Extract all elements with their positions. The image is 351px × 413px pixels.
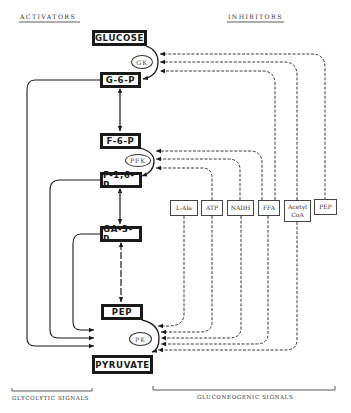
enzyme-pk: PK — [129, 332, 152, 346]
enzyme-gk: GK — [131, 55, 153, 69]
glycolytic-bracket — [12, 388, 92, 391]
inhibitor-line-ffa-gk — [160, 71, 275, 200]
metabolite-f6p: F-6-P — [100, 133, 141, 149]
inhibitor-lala: L-Ala — [170, 200, 198, 216]
inhibitor-acetylcoa: Acetyl CoA — [284, 200, 311, 222]
inhibitor-ffa: FFA — [258, 200, 280, 216]
inhibitor-line-ffa-pfk — [156, 151, 262, 200]
inhibitor-atp: ATP — [201, 200, 223, 216]
inhibitor-nadh: NADH — [227, 200, 254, 216]
inhibitor-line-atp-pfk — [156, 168, 212, 200]
metabolite-pyruvate: PYRUVATE — [92, 355, 153, 374]
inhibitor-line-acetylcoa-gk — [160, 62, 297, 200]
metabolite-f16p: F-1,6-P — [100, 172, 142, 188]
inhibitors-header: INHIBITORS — [228, 13, 283, 20]
inhibitor-line-acetylcoa-pk — [158, 222, 297, 350]
inhibitor-line-pep-gk — [160, 54, 325, 200]
inhibitor-line-lala-pk — [158, 216, 184, 326]
inhibitor-line-atp-pk — [161, 216, 212, 332]
activators-header: ACTIVATORS — [20, 13, 76, 20]
inhibitor-line-nadh-pk — [161, 216, 241, 338]
activator-line-ga3p — [73, 234, 100, 330]
metabolite-glucose: GLUCOSE — [92, 30, 147, 46]
activator-line-g6p — [27, 80, 100, 346]
inhibitor-pep: PEP — [314, 199, 337, 215]
metabolite-ga3p: GA-3-P — [100, 226, 142, 242]
glycolytic-signals-label: GLYCOLYTIC SIGNALS — [12, 395, 89, 401]
gluconeogenic-signals-label: GLUCONEOGENIC SIGNALS — [197, 394, 293, 400]
inhibitor-line-nadh-pfk — [156, 159, 240, 200]
metabolite-pep: PEP — [101, 304, 143, 320]
activator-line-f16p — [50, 180, 100, 338]
gluconeogenic-bracket — [153, 386, 335, 390]
metabolite-g6p: G-6-P — [100, 72, 141, 88]
enzyme-pfk: PFK — [125, 154, 151, 167]
